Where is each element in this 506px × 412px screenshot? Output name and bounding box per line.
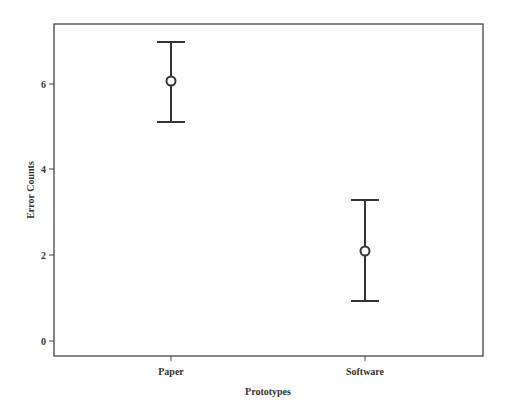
x-tick-software: Software: [346, 366, 385, 377]
y-tick-0: 0: [41, 336, 46, 347]
y-tick-2: 2: [41, 250, 46, 261]
y-tick-4: 4: [41, 164, 46, 175]
errorbar-paper: [157, 42, 185, 122]
y-tick-6: 6: [41, 79, 46, 90]
x-axis-title: Prototypes: [245, 386, 291, 397]
error-bar-chart: 0 2 4 6 Paper Software Prototypes Error …: [0, 0, 506, 412]
plot-frame: [54, 24, 483, 356]
y-axis-title: Error Counts: [25, 161, 36, 219]
x-tick-paper: Paper: [158, 366, 184, 377]
y-axis: [49, 84, 54, 341]
x-axis: [171, 356, 365, 361]
errorbar-software: [351, 200, 379, 301]
